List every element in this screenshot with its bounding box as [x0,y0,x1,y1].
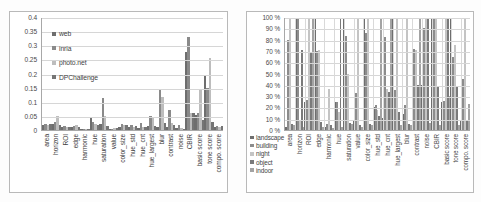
legend-swatch-icon [52,46,56,50]
x-axis-tick-label: hue_std [128,134,135,157]
x-axis-tick-label: tone score [452,134,459,162]
x-axis-label-cell: saturation [98,133,108,191]
vertical-gridline [422,18,423,130]
x-axis-tick-label: color_size [119,134,126,163]
x-axis-label-cell: color_size [118,133,128,191]
x-axis-label-cell: hue [89,133,99,191]
y-axis-tick-label: 0.15 [25,85,37,92]
x-axis-tick-label: compo. score [215,134,222,172]
x-axis-label-cell: value [108,133,118,191]
x-axis-tick-label: CBIR [432,134,439,149]
legend-item[interactable]: landscape [250,134,284,141]
x-axis-tick-label: hue_cnt [138,134,145,157]
legend-item[interactable]: object [250,159,284,166]
legend-item[interactable]: night [250,150,284,157]
x-axis-label-cell: basic score [194,133,204,191]
vertical-gridline [324,18,325,130]
x-axis-tick-label: hue_cnt [383,134,390,156]
x-axis-tick-label: hue_largest [393,134,400,166]
x-axis-label-cell: hue_std [127,133,137,191]
legend-swatch-icon [250,160,254,164]
y-axis-tick-label: 60 % [266,60,280,67]
x-axis-label-cell: hue_cnt [137,133,147,191]
x-axis-tick-label: tone score [205,134,212,164]
bar [347,74,349,131]
x-axis-label-cell: hue_std [372,133,382,191]
y-axis-tick-label: 0.4 [28,15,37,22]
x-axis-tick-label: value [109,134,116,149]
legend-swatch-icon [250,136,254,140]
x-axis-tick-label: horizon [295,134,302,154]
bar [328,89,330,130]
vertical-gridline [314,18,315,130]
legend-item[interactable]: photo.net [52,59,98,66]
x-axis-label-cell: tone score [204,133,214,191]
legend-label: inria [59,45,71,52]
y-axis-tick-label: 0.35 [25,29,37,36]
x-axis-tick-label: hue [90,134,97,145]
legend-item[interactable]: building [250,142,284,149]
chart-left-y-axis: 00.050.10.150.20.250.30.350.4 [10,12,39,131]
legend-item[interactable]: indoor [250,167,284,174]
x-axis-tick-label: noise [176,134,183,149]
x-axis-label-cell: noise [421,133,431,191]
bar [301,50,303,130]
x-axis-tick-label: ROI [305,134,312,145]
x-axis-tick-label: CBIR [186,134,193,149]
vertical-gridline [344,18,345,130]
x-axis-label-cell: CBIR [431,133,441,191]
x-axis-label-cell: area [284,133,294,191]
y-axis-tick-label: 0.1 [28,99,37,106]
legend-item[interactable]: DPChallenge [52,74,98,81]
x-axis-tick-label: color_size [364,134,371,161]
x-axis-tick-label: ROI [61,134,68,145]
x-axis-tick-label: blur [403,134,410,144]
legend-swatch-icon [52,61,56,65]
legend-label: indoor [256,167,273,174]
vertical-gridline [363,18,364,130]
legend-label: photo.net [59,59,86,66]
y-axis-tick-label: 90 % [266,26,280,33]
x-axis-label-cell: hue [333,133,343,191]
y-axis-tick-label: 50 % [266,71,280,78]
x-axis-tick-label: compo. score [462,134,469,171]
bar [221,126,223,130]
chart-right-legend: landscapebuildingnightobjectindoor [250,134,284,175]
vertical-gridline [373,18,374,130]
y-axis-tick-label: 80 % [266,37,280,44]
y-axis-tick-label: 10 % [266,116,280,123]
x-axis-label-cell: contrast [166,133,176,191]
chart-right-y-axis: 0 %10 %20 %30 %40 %50 %60 %70 %80 %90 %1… [247,12,282,131]
vertical-gridline [295,18,296,130]
x-axis-tick-label: hue [334,134,341,144]
legend-label: landscape [256,134,284,141]
x-axis-tick-label: edge [71,134,78,148]
bar [209,58,211,130]
vertical-gridline [393,18,394,130]
x-axis-label-cell: tone score [451,133,461,191]
x-axis-tick-label: harmonic [81,134,88,160]
x-axis-tick-label: noise [423,134,430,149]
x-axis-label-cell: hue_cnt [382,133,392,191]
x-axis-tick-label: hue_largest [148,134,155,167]
vertical-gridline [451,18,452,130]
legend-item[interactable]: inria [52,45,98,52]
x-axis-tick-label: basic score [196,134,203,166]
vertical-gridline [383,18,384,130]
x-axis-label-cell: area [41,133,51,191]
x-axis-tick-label: hue_std [374,134,381,156]
y-axis-tick-label: 30 % [266,94,280,101]
x-axis-label-cell: saturation [343,133,353,191]
legend-label: object [256,159,272,166]
x-axis-label-cell: basic score [441,133,451,191]
legend-swatch-icon [250,152,254,156]
legend-swatch-icon [52,32,56,36]
legend-item[interactable]: web [52,30,98,37]
x-axis-label-cell: compo. score [460,133,470,191]
x-axis-label-cell: ROI [304,133,314,191]
x-axis-label-cell: hue_largest [146,133,156,191]
x-axis-label-cell: noise [175,133,185,191]
vertical-gridline [305,18,306,130]
chart-left-legend: webinriaphoto.netDPChallenge [52,30,98,88]
x-axis-tick-label: contrast [167,134,174,157]
